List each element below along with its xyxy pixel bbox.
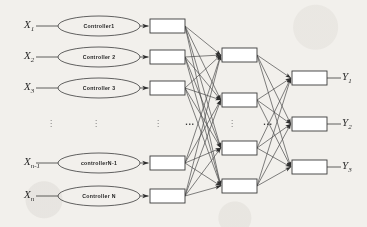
controller-label: Controller 3 [83,85,116,91]
vertical-ellipsis-icon: ... [157,117,159,126]
input-label-base: X [24,80,31,92]
hidden-node-box [222,93,257,107]
input-label-base: X [24,155,31,167]
output-label: Y2 [342,116,352,131]
output-node-box [292,71,327,85]
input-label-subscript: 1 [31,25,35,33]
node-boxes [150,19,327,203]
input-node-box [150,19,185,33]
diagram-vector-layer [0,0,367,227]
controller-label: Controller1 [84,23,115,29]
input-label-subscript: 2 [31,56,35,64]
input-label-subscript: 3 [31,87,35,95]
input-node-box [150,189,185,203]
output-label: Y1 [342,70,352,85]
horizontal-ellipsis-icon: ... [185,117,194,127]
vertical-ellipsis-icon: ... [50,117,52,126]
output-label-subscript: 1 [348,77,352,85]
output-label-subscript: 3 [348,166,352,174]
controller-label: Controller N [82,193,116,199]
input-label: X3 [24,80,34,95]
output-node-box [292,160,327,174]
diagram-canvas: X1Controller1X2Controller 2X3Controller … [0,0,367,227]
vertical-ellipsis-icon: ... [95,117,97,126]
input-node-box [150,81,185,95]
edges-ellipse-to-box [140,26,149,196]
edges-hidden-to-output [257,55,291,186]
output-node-box [292,117,327,131]
output-label: Y3 [342,159,352,174]
controller-label: Controller 2 [83,54,116,60]
hidden-node-box [222,48,257,62]
input-label-subscript: n [31,195,35,203]
hidden-node-box [222,179,257,193]
controller-ellipses [58,16,140,206]
edges-input-to-ellipse [36,26,58,196]
horizontal-ellipsis-icon: ... [263,117,272,127]
input-label: Xn [24,188,34,203]
input-label-base: X [24,49,31,61]
input-label: X2 [24,49,34,64]
input-label-subscript: n-1 [31,162,40,170]
hidden-node-box [222,141,257,155]
input-node-box [150,156,185,170]
edges-input-to-hidden [185,26,221,196]
edges-output-to-label [327,78,341,167]
vertical-ellipsis-icon: ... [231,117,233,126]
input-label-base: X [24,188,31,200]
input-label: Xn-1 [24,155,40,170]
controller-label: controllerN-1 [81,160,117,166]
output-label-subscript: 2 [348,123,352,131]
input-node-box [150,50,185,64]
input-label: X1 [24,18,34,33]
input-label-base: X [24,18,31,30]
